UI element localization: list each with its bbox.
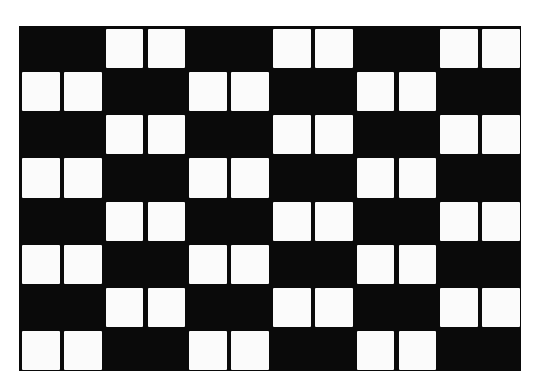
white-square: [64, 331, 102, 370]
white-square: [148, 115, 186, 154]
white-square: [148, 29, 186, 68]
white-square: [440, 29, 478, 68]
white-square: [399, 158, 437, 197]
white-square: [189, 331, 227, 370]
white-square: [148, 288, 186, 327]
white-square: [482, 115, 520, 154]
white-square: [64, 245, 102, 284]
white-square: [357, 245, 395, 284]
white-square: [22, 331, 60, 370]
white-square: [357, 72, 395, 111]
white-square: [273, 115, 311, 154]
white-square: [273, 202, 311, 241]
white-square: [22, 72, 60, 111]
white-square: [482, 288, 520, 327]
white-square: [399, 331, 437, 370]
white-square: [231, 245, 269, 284]
white-square: [357, 158, 395, 197]
white-square: [399, 245, 437, 284]
white-square: [106, 202, 144, 241]
white-square: [315, 115, 353, 154]
white-square: [106, 115, 144, 154]
white-square: [189, 158, 227, 197]
white-square: [64, 158, 102, 197]
white-square: [189, 72, 227, 111]
white-square: [482, 29, 520, 68]
white-square: [315, 288, 353, 327]
white-square: [440, 288, 478, 327]
white-square: [399, 72, 437, 111]
white-square: [148, 202, 186, 241]
white-square: [231, 72, 269, 111]
white-square: [64, 72, 102, 111]
white-square: [106, 29, 144, 68]
white-square: [22, 245, 60, 284]
white-square: [315, 202, 353, 241]
white-square: [273, 288, 311, 327]
checker-board: [19, 26, 521, 371]
white-square: [273, 29, 311, 68]
white-square: [482, 202, 520, 241]
white-square: [22, 158, 60, 197]
white-square: [189, 245, 227, 284]
white-square: [440, 115, 478, 154]
white-square: [106, 288, 144, 327]
white-square: [315, 29, 353, 68]
white-square: [440, 202, 478, 241]
white-square: [231, 158, 269, 197]
white-square: [357, 331, 395, 370]
white-square: [231, 331, 269, 370]
